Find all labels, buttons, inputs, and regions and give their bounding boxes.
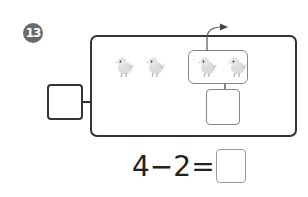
- total-answer-box[interactable]: [47, 84, 83, 120]
- equation-answer-box[interactable]: [216, 149, 246, 183]
- equation-right: 2: [173, 150, 191, 183]
- equation-equals: =: [191, 150, 214, 183]
- bird-icon: [113, 55, 135, 79]
- equation-operator: −: [150, 150, 173, 183]
- bird-icon: [226, 55, 248, 79]
- problem-number-badge: 13: [23, 23, 43, 43]
- equation-left: 4: [132, 150, 150, 183]
- group-answer-box[interactable]: [206, 89, 240, 125]
- bird-icon: [144, 55, 166, 79]
- bird-icon: [196, 55, 218, 79]
- fly-away-arrow-icon: [200, 20, 236, 52]
- equation: 4 − 2 =: [132, 146, 246, 186]
